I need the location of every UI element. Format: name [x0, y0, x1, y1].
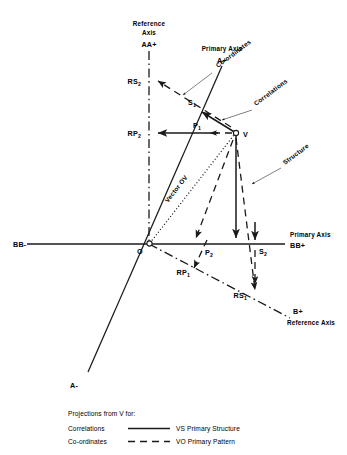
- label-point-p2: P2: [205, 248, 213, 258]
- projection-v-to-rs1-coordinates: [236, 138, 255, 290]
- legend-row-0-name: Correlations: [68, 425, 105, 432]
- label-primary-axis-right: Primary Axis: [290, 231, 331, 239]
- legend-heading: Projections from V for:: [68, 410, 136, 418]
- axis-a-oblique: [88, 66, 222, 372]
- callout-correlations: Correlations: [252, 77, 288, 107]
- legend-row-1-target: VO Primary Pattern: [176, 438, 235, 446]
- point-marker-o: [147, 241, 152, 246]
- callout-vector-ov: Vector OV: [163, 173, 189, 203]
- legend-row-0-target: VS Primary Structure: [176, 425, 240, 433]
- label-point-rs1: RS1: [234, 291, 247, 301]
- axis-b-reference-oblique: [149, 244, 290, 318]
- callout-coordinates: Co-ordinates: [214, 38, 252, 69]
- label-point-rs2: RS2: [128, 77, 141, 87]
- label-reference-axis-top-line2: Axis: [142, 29, 156, 36]
- leader-correlations: [222, 110, 252, 120]
- label-point-s2: S2: [259, 247, 267, 257]
- label-point-rp1: RP1: [177, 268, 190, 278]
- legend-row-1-name: Co-ordinates: [68, 438, 108, 445]
- label-point-v: V: [243, 130, 248, 139]
- diagram-canvas: Reference Axis AA+ Primary Axis A+ BB- P…: [0, 0, 347, 455]
- label-point-o: O: [137, 247, 143, 256]
- label-axis-a-minus: A-: [70, 381, 78, 390]
- label-point-s1: S1: [188, 98, 196, 108]
- vector-ov-dotted: [150, 135, 234, 243]
- projection-v-to-s1-correlations: [202, 112, 236, 133]
- label-reference-axis-top-line1: Reference: [133, 20, 166, 27]
- label-axis-aa-plus: AA+: [141, 40, 156, 49]
- point-marker-v: [233, 130, 238, 135]
- leader-coordinates: [183, 73, 212, 95]
- label-axis-bb-minus: BB-: [13, 240, 27, 249]
- leader-structure: [252, 168, 281, 184]
- label-point-rp2: RP2: [128, 129, 141, 139]
- label-axis-b-plus: B+: [293, 307, 303, 316]
- label-axis-bb-plus: BB+: [290, 241, 305, 250]
- label-reference-axis-right: Reference Axis: [287, 319, 335, 326]
- projection-v-to-p2-pattern: [196, 140, 233, 238]
- vector-projection-diagram: Reference Axis AA+ Primary Axis A+ BB- P…: [0, 0, 347, 455]
- callout-structure: Structure: [281, 142, 310, 166]
- label-point-p1: P1: [193, 121, 201, 131]
